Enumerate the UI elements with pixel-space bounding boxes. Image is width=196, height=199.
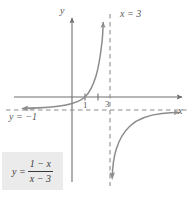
x-tick-label-1: 1 [83, 101, 88, 110]
equation-callout-box: y = 1 − x x − 3 [2, 152, 63, 190]
equation-lhs: y = [12, 166, 26, 177]
curve-branch-left [26, 23, 103, 109]
horizontal-asymptote-label: y = −1 [9, 112, 37, 122]
equation-fraction: 1 − x x − 3 [28, 158, 53, 183]
rational-function-figure: y x x = 3 y = −1 1 3 y = 1 − x x − 3 [0, 0, 196, 199]
x-axis-label: x [178, 106, 182, 116]
equation-denominator: x − 3 [28, 173, 53, 184]
x-tick-label-3: 3 [105, 100, 110, 109]
equation-numerator: 1 − x [28, 158, 53, 169]
vertical-asymptote-label: x = 3 [120, 9, 141, 19]
curve-branch-right [109, 113, 179, 181]
function-equation: y = 1 − x x − 3 [2, 152, 63, 190]
y-axis-label: y [60, 6, 64, 16]
equation-fraction-bar [28, 171, 53, 172]
